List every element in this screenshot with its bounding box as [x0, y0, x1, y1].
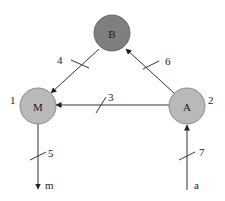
edge-7-label: 7 [199, 146, 205, 158]
terminal-m-label: m [45, 179, 54, 191]
node-a: A 2 [169, 88, 214, 124]
node-b: B [94, 15, 130, 51]
edge-5-label: 5 [48, 147, 54, 159]
node-m-label: M [33, 101, 43, 113]
node-m: M 1 [10, 88, 56, 124]
diagram-canvas: 4 6 3 5 m 7 a B M 1 A 2 [0, 0, 225, 201]
node-m-index: 1 [10, 94, 16, 106]
edge-6: 6 [126, 49, 174, 93]
edge-3-label: 3 [108, 91, 114, 103]
edge-4: 4 [51, 49, 99, 93]
node-b-label: B [108, 28, 115, 40]
edge-5: 5 m [30, 124, 54, 191]
edge-7: 7 a [179, 125, 205, 191]
terminal-a-label: a [194, 179, 199, 191]
node-a-label: A [183, 101, 191, 113]
edge-4-label: 4 [57, 54, 63, 66]
edge-6-label: 6 [165, 55, 171, 67]
node-a-index: 2 [208, 94, 214, 106]
edge-3: 3 [56, 91, 169, 113]
